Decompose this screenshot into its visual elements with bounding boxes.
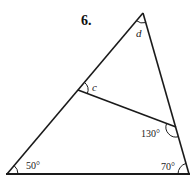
angle-arc-50 [14,166,18,174]
angle-arc-d [137,21,146,23]
right-side [143,13,189,174]
problem-number: 6. [81,13,92,28]
left-side [7,13,143,174]
label-130: 130° [141,128,160,139]
label-70: 70° [161,161,175,172]
label-50: 50° [26,160,40,171]
inner-segment [78,90,176,127]
label-c: c [92,81,97,93]
label-d: d [136,27,142,39]
triangle-diagram: 6. d c 130° 50° 70° [0,0,193,181]
angle-arc-70 [178,163,186,174]
